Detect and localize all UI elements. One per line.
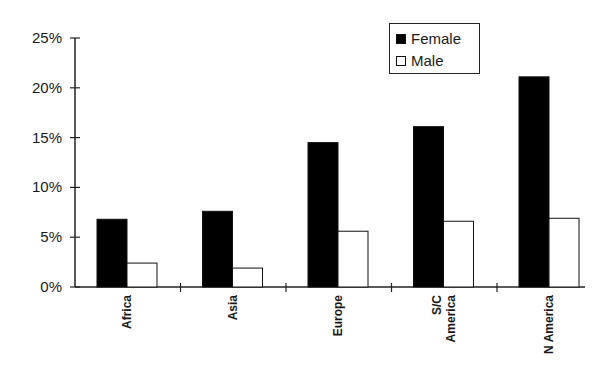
y-tick-label: 20% bbox=[0, 80, 62, 95]
legend-item-male: Male bbox=[396, 52, 444, 69]
y-tick-label: 0% bbox=[0, 279, 62, 294]
bar-chart bbox=[0, 0, 602, 387]
y-tick-label: 15% bbox=[0, 130, 62, 145]
x-category-label: Africa bbox=[120, 295, 134, 375]
female-swatch-icon bbox=[396, 34, 406, 44]
bar-female-europe bbox=[308, 143, 338, 287]
x-category-label: S/C America bbox=[430, 295, 458, 375]
x-category-label: Asia bbox=[226, 295, 240, 375]
x-category-label: N America bbox=[542, 295, 556, 375]
bar-female-s-c-america bbox=[414, 127, 444, 287]
legend-item-female: Female bbox=[396, 30, 461, 47]
bar-female-asia bbox=[203, 211, 233, 287]
male-swatch-icon bbox=[396, 56, 406, 66]
y-tick-label: 5% bbox=[0, 229, 62, 244]
y-tick-label: 10% bbox=[0, 179, 62, 194]
bar-male-s-c-america bbox=[444, 221, 474, 287]
bar-female-africa bbox=[97, 219, 127, 287]
bar-male-asia bbox=[233, 268, 263, 287]
plot-area bbox=[0, 0, 602, 387]
bar-male-europe bbox=[338, 231, 368, 287]
y-tick-label: 25% bbox=[0, 30, 62, 45]
bar-male-n-america bbox=[549, 218, 579, 287]
legend-label-male: Male bbox=[411, 52, 444, 69]
x-category-label: Europe bbox=[331, 295, 345, 375]
bar-male-africa bbox=[127, 263, 157, 287]
bar-female-n-america bbox=[519, 77, 549, 287]
legend: Female Male bbox=[389, 23, 480, 74]
legend-label-female: Female bbox=[411, 30, 461, 47]
